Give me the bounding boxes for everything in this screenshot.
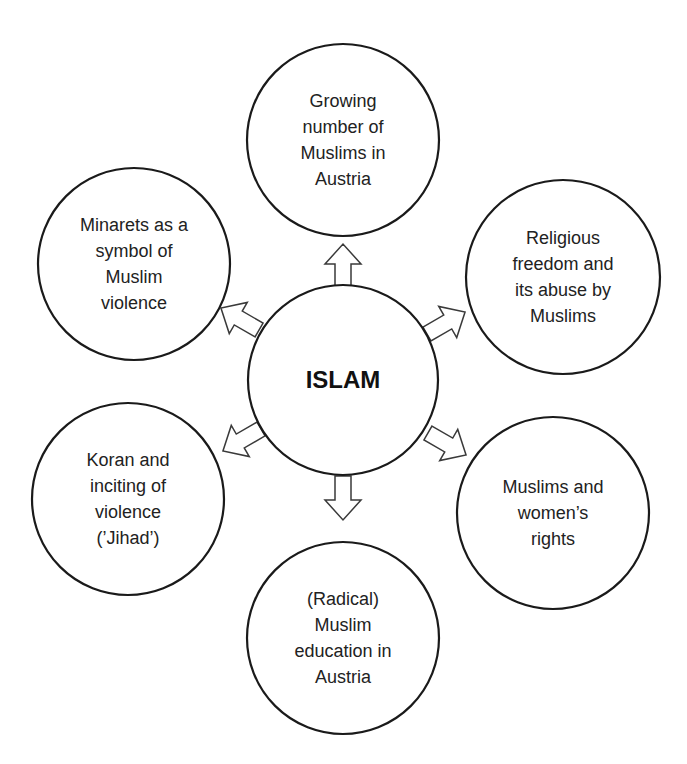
node-label-minarets: Minarets as a symbol of Muslim violence: [49, 212, 219, 316]
block-arrow-icon: [325, 476, 361, 520]
node-label-muslim-education: (Radical) Muslim education in Austria: [258, 586, 428, 690]
node-label-religious-freedom: Religious freedom and its abuse by Musli…: [478, 225, 648, 329]
center-node-label: ISLAM: [258, 367, 428, 393]
node-label-koran-jihad: Koran and inciting of violence (’Jihad’): [43, 447, 213, 551]
node-label-womens-rights: Muslims and women’s rights: [468, 474, 638, 552]
node-label-growing-number: Growing number of Muslims in Austria: [258, 88, 428, 192]
block-arrow-icon: [325, 244, 361, 288]
